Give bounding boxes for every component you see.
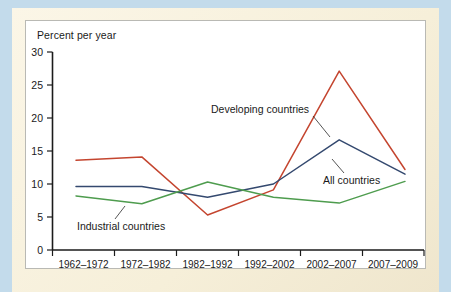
y-tick-10: 10 bbox=[31, 178, 43, 190]
plot-area: Percent per year 30 bbox=[26, 21, 427, 270]
annotation-industrial-countries: Industrial countries bbox=[77, 206, 165, 232]
x-axis-tick-labels: 1962–1972 1972–1982 1982–1992 1992–2002 … bbox=[58, 259, 418, 270]
x-tick-1992-2002: 1992–2002 bbox=[244, 259, 294, 270]
y-tick-0: 0 bbox=[37, 244, 43, 256]
annotation-all-countries: All countries bbox=[323, 159, 380, 186]
series-group bbox=[76, 71, 405, 215]
y-axis-tick-labels: 30 25 20 15 10 5 0 bbox=[31, 46, 43, 256]
x-tick-1982-1992: 1982–1992 bbox=[182, 259, 232, 270]
y-axis-ticks bbox=[47, 52, 53, 250]
x-tick-1962-1972: 1962–1972 bbox=[58, 259, 108, 270]
y-axis: 30 25 20 15 10 5 0 bbox=[31, 46, 52, 256]
x-axis-ticks bbox=[53, 250, 425, 256]
y-tick-20: 20 bbox=[31, 112, 43, 124]
series-line-all-countries bbox=[76, 140, 405, 197]
x-tick-2002-2007: 2002–2007 bbox=[306, 259, 356, 270]
series-line-developing-countries bbox=[76, 71, 405, 215]
y-tick-5: 5 bbox=[37, 211, 43, 223]
y-tick-30: 30 bbox=[31, 46, 43, 58]
x-axis: 1962–1972 1972–1982 1982–1992 1992–2002 … bbox=[53, 250, 425, 270]
figure-root: Percent per year 30 bbox=[0, 0, 451, 292]
chart-svg: 30 25 20 15 10 5 0 bbox=[26, 21, 427, 270]
annotation-label-developing-countries: Developing countries bbox=[211, 103, 309, 115]
chart-card: Percent per year 30 bbox=[25, 20, 426, 269]
annotation-label-industrial-countries: Industrial countries bbox=[77, 220, 165, 232]
x-tick-2007-2009: 2007–2009 bbox=[368, 259, 418, 270]
annotation-label-all-countries: All countries bbox=[323, 174, 380, 186]
y-tick-15: 15 bbox=[31, 145, 43, 157]
y-tick-25: 25 bbox=[31, 79, 43, 91]
x-tick-1972-1982: 1972–1982 bbox=[120, 259, 170, 270]
